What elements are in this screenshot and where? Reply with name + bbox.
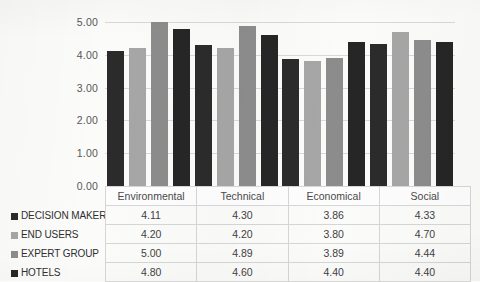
y-axis-tick-label: 4.00 <box>54 49 98 61</box>
bar <box>436 42 453 186</box>
bar <box>217 48 234 186</box>
table-column-header: Social <box>379 187 470 206</box>
bar <box>348 42 365 186</box>
table-value-cell: 4.11 <box>106 206 197 225</box>
data-table: EnvironmentalTechnicalEconomicalSocialDE… <box>9 186 471 282</box>
y-axis-tick-label: 5.00 <box>54 16 98 28</box>
bar <box>261 35 278 186</box>
legend-row-label: END USERS <box>9 225 106 244</box>
table-header-row: EnvironmentalTechnicalEconomicalSocial <box>9 187 471 206</box>
table-row: EXPERT GROUP5.004.893.894.44 <box>9 244 471 263</box>
table-value-cell: 3.80 <box>288 225 379 244</box>
bar <box>173 29 190 186</box>
legend-swatch-icon <box>11 251 18 258</box>
table-row: DECISION MAKERS4.114.303.864.33 <box>9 206 471 225</box>
bar <box>129 48 146 186</box>
table-value-cell: 3.89 <box>288 244 379 263</box>
bar <box>370 44 387 186</box>
table-value-cell: 4.89 <box>197 244 288 263</box>
table-value-cell: 4.20 <box>197 225 288 244</box>
y-axis-tick-label: 1.00 <box>54 147 98 159</box>
legend-row-label: DECISION MAKERS <box>9 206 106 225</box>
table-value-cell: 4.40 <box>288 263 379 282</box>
legend-series-name: END USERS <box>21 229 78 240</box>
y-axis-tick-label: 2.00 <box>54 114 98 126</box>
table-corner-cell <box>9 187 106 206</box>
legend-row-label: EXPERT GROUP <box>9 244 106 263</box>
bar <box>304 61 321 186</box>
y-axis: 0.001.002.003.004.005.00 <box>52 0 98 192</box>
bar <box>326 58 343 186</box>
table-body: EnvironmentalTechnicalEconomicalSocialDE… <box>9 187 471 282</box>
table-column-header: Technical <box>197 187 288 206</box>
legend-swatch-icon <box>11 213 18 220</box>
table-value-cell: 4.44 <box>379 244 470 263</box>
table-value-cell: 4.80 <box>106 263 197 282</box>
table-column-header: Economical <box>288 187 379 206</box>
legend-series-name: HOTELS <box>21 267 60 278</box>
table-value-cell: 4.40 <box>379 263 470 282</box>
table-value-cell: 3.86 <box>288 206 379 225</box>
table-row: END USERS4.204.203.804.70 <box>9 225 471 244</box>
legend-row-label: HOTELS <box>9 263 106 282</box>
legend-swatch-icon <box>11 232 18 239</box>
legend-series-name: EXPERT GROUP <box>21 248 99 259</box>
table-value-cell: 4.30 <box>197 206 288 225</box>
table-value-cell: 4.70 <box>379 225 470 244</box>
bar-series-layer <box>105 0 455 186</box>
bar <box>282 59 299 186</box>
chart-plot-area: 0.001.002.003.004.005.00 <box>0 0 480 192</box>
table-column-header: Environmental <box>106 187 197 206</box>
table-value-cell: 4.33 <box>379 206 470 225</box>
bar <box>239 26 256 186</box>
bar <box>392 32 409 186</box>
legend-swatch-icon <box>11 270 18 277</box>
table-value-cell: 5.00 <box>106 244 197 263</box>
table-value-cell: 4.20 <box>106 225 197 244</box>
table-row: HOTELS4.804.604.404.40 <box>9 263 471 282</box>
y-axis-tick-label: 3.00 <box>54 82 98 94</box>
bar <box>195 45 212 186</box>
table-value-cell: 4.60 <box>197 263 288 282</box>
legend-series-name: DECISION MAKERS <box>21 210 106 221</box>
bar <box>107 51 124 186</box>
bar <box>414 40 431 186</box>
bar <box>151 22 168 186</box>
